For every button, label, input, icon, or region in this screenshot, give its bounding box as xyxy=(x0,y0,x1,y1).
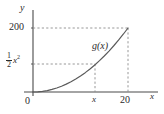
fraction-denominator: 2 xyxy=(6,61,12,69)
fraction-one-half: 1 2 xyxy=(6,52,12,68)
variable-exponent: 2 xyxy=(17,54,20,60)
x-axis-label: x xyxy=(150,92,154,101)
y-axis-label: y xyxy=(20,3,24,13)
fraction-numerator: 1 xyxy=(6,52,12,60)
x-tick-label-20: 20 xyxy=(120,95,130,105)
y-tick-label-half-x-squared: 1 2 x 2 xyxy=(6,52,20,68)
graph-figure: y x 200 1 2 x 2 0 x 20 g(x) xyxy=(0,0,164,114)
curve-label-gx: g(x) xyxy=(92,41,108,51)
x-tick-label-x: x xyxy=(92,95,96,104)
curve-gx xyxy=(33,28,128,92)
origin-label: 0 xyxy=(25,96,30,106)
y-tick-label-200: 200 xyxy=(9,22,24,32)
